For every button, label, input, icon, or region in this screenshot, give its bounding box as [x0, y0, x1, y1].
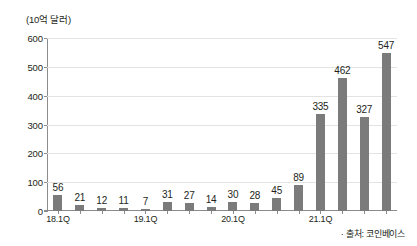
bar-value-label: 327	[356, 104, 372, 115]
bar-value-label: 462	[334, 65, 350, 76]
bar-chart: (10억 달러) 5621121173127143028458933546232…	[0, 0, 417, 246]
bar	[207, 38, 216, 211]
x-axis-tick-label: 18.1Q	[46, 214, 70, 224]
bar-value-label: 547	[378, 40, 394, 51]
bar-value-label: 12	[96, 195, 107, 206]
bar-value-label: 89	[293, 172, 304, 183]
bar	[382, 38, 391, 211]
bar-rect	[228, 202, 237, 211]
bar-value-label: 27	[184, 190, 195, 201]
bar	[141, 38, 150, 211]
bar-value-label: 30	[228, 189, 239, 200]
bar-rect	[360, 117, 369, 211]
x-axis-tick-mark	[58, 211, 59, 214]
x-axis-tick-mark	[124, 211, 125, 214]
x-axis-tick-mark	[189, 211, 190, 214]
y-axis-tick-mark	[44, 96, 47, 97]
bar-rect	[163, 202, 172, 211]
y-axis-tick-label: 500	[3, 61, 43, 72]
bar-rect	[250, 203, 259, 211]
x-axis-tick-label: 20.1Q	[221, 214, 245, 224]
x-axis-tick-mark	[255, 211, 256, 214]
y-axis-tick-mark	[44, 153, 47, 154]
bar-rect	[185, 203, 194, 211]
bar-rect	[53, 195, 62, 211]
x-axis-tick-mark	[277, 211, 278, 214]
x-axis-tick-mark	[320, 211, 321, 214]
y-axis-tick-label: 100	[3, 177, 43, 188]
y-axis-tick-label: 300	[3, 119, 43, 130]
bar-value-label: 56	[53, 182, 64, 193]
bar	[250, 38, 259, 211]
bar-value-label: 28	[249, 190, 260, 201]
bar-rect	[316, 114, 325, 211]
y-axis-tick-label: 600	[3, 33, 43, 44]
y-axis-tick-mark	[44, 211, 47, 212]
y-axis-tick-mark	[44, 125, 47, 126]
bar	[97, 38, 106, 211]
x-axis-tick-mark	[167, 211, 168, 214]
bar	[316, 38, 325, 211]
bar-value-label: 45	[271, 185, 282, 196]
x-axis-tick-mark	[145, 211, 146, 214]
y-axis-tick-mark	[44, 182, 47, 183]
x-axis-tick-mark	[364, 211, 365, 214]
bar-value-label: 335	[312, 101, 328, 112]
x-axis-tick-mark	[299, 211, 300, 214]
bar-rect	[382, 53, 391, 211]
x-axis-tick-mark	[80, 211, 81, 214]
bar-value-label: 14	[206, 194, 217, 205]
bar-rect	[338, 78, 347, 211]
plot-area: 56211211731271430284589335462327547	[47, 38, 397, 211]
y-axis-tick-label: 200	[3, 148, 43, 159]
bar	[185, 38, 194, 211]
bar-rect	[272, 198, 281, 211]
x-axis-tick-mark	[211, 211, 212, 214]
x-axis-tick-mark	[386, 211, 387, 214]
bar	[294, 38, 303, 211]
x-axis-tick-label: 19.1Q	[134, 214, 158, 224]
y-axis-tick-mark	[44, 67, 47, 68]
y-axis-tick-mark	[44, 38, 47, 39]
bar-value-label: 21	[74, 192, 85, 203]
bar	[75, 38, 84, 211]
bar	[119, 38, 128, 211]
bar	[163, 38, 172, 211]
y-axis-unit-label: (10억 달러)	[26, 12, 71, 26]
x-axis-tick-label: 21.1Q	[309, 214, 333, 224]
y-axis-tick-label: 0	[3, 206, 43, 217]
bar	[360, 38, 369, 211]
y-axis-tick-label: 400	[3, 90, 43, 101]
x-axis-tick-mark	[233, 211, 234, 214]
bar	[228, 38, 237, 211]
bar-value-label: 31	[162, 189, 173, 200]
x-axis-tick-mark	[102, 211, 103, 214]
x-axis-tick-mark	[342, 211, 343, 214]
bar-rect	[294, 185, 303, 211]
source-note: · 출처: 코인베이스	[341, 227, 405, 240]
bar-value-label: 11	[119, 195, 129, 206]
bar-value-label: 7	[143, 196, 148, 207]
